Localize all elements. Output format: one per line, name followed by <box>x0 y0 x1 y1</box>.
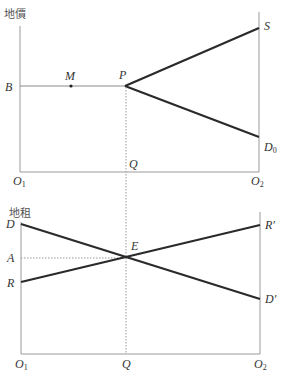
label-R-prime: R′ <box>264 218 275 232</box>
line-P-D0 <box>125 86 259 137</box>
line-R-Rprime <box>21 225 260 282</box>
point-M <box>69 84 72 87</box>
land-price-rent-diagram: 地價 B M P S D0 Q O1 O2 地租 <box>0 0 282 379</box>
label-O1-bottom: O1 <box>15 357 28 372</box>
label-D: D <box>5 217 15 231</box>
label-O2-top: O2 <box>251 174 264 189</box>
label-Q-top: Q <box>129 157 138 171</box>
label-O1-top: O1 <box>13 174 26 189</box>
top-panel: 地價 B M P S D0 Q O1 O2 <box>4 7 277 189</box>
line-P-S <box>125 28 259 86</box>
label-P: P <box>118 68 127 82</box>
line-D-Dprime <box>21 224 260 299</box>
label-D0: D0 <box>263 140 277 155</box>
bottom-panel: 地租 D A R E R′ D′ Q O1 O2 <box>5 207 277 372</box>
label-M: M <box>64 69 76 83</box>
label-A: A <box>6 251 15 265</box>
label-B: B <box>5 80 13 94</box>
label-E: E <box>130 239 139 253</box>
label-R: R <box>6 276 15 290</box>
label-Q-bottom: Q <box>122 357 131 371</box>
label-D-prime: D′ <box>264 292 277 306</box>
label-S: S <box>264 19 270 33</box>
label-O2-bottom: O2 <box>254 357 267 372</box>
top-y-axis-title: 地價 <box>4 7 26 21</box>
